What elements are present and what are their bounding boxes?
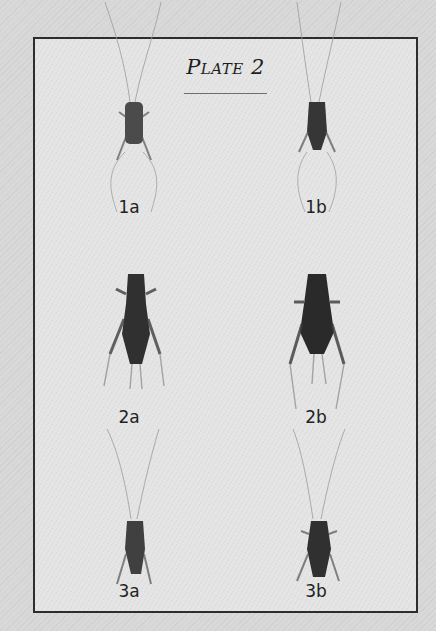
cricket-icon xyxy=(279,2,359,202)
title-divider xyxy=(184,93,267,94)
specimen-2b xyxy=(272,214,362,414)
specimen-2a xyxy=(90,214,180,414)
cricket-icon xyxy=(90,214,180,414)
cricket-icon xyxy=(95,409,175,609)
cricket-icon xyxy=(272,214,362,414)
specimen-3a xyxy=(95,409,175,609)
figure-label-3a: 3a xyxy=(118,581,139,601)
cricket-icon xyxy=(95,2,175,202)
cricket-icon xyxy=(279,409,359,609)
specimen-1a xyxy=(95,2,175,202)
figure-label-3b: 3b xyxy=(305,581,327,601)
specimen-1b xyxy=(279,2,359,202)
plate-frame: Plate 2 1a xyxy=(33,37,418,613)
specimen-3b xyxy=(279,409,359,609)
